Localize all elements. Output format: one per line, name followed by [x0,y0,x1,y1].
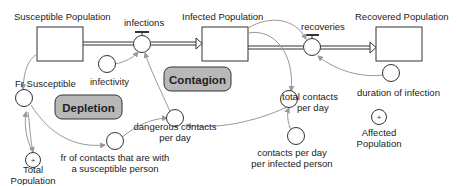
aux-infectivity[interactable]: infectivity [90,56,129,88]
flow-arrowhead-icon [370,42,376,53]
flow-label: infections [124,17,164,28]
valve-icon [134,36,151,53]
aux-circle-icon [107,133,124,150]
aux-label: Population [11,175,56,185]
aux-label: infectivity [90,76,129,87]
aux-fr-of-contacts[interactable]: fr of contacts that are with a susceptib… [61,133,170,175]
aux-label: contacts per day [257,147,327,158]
stock-flow-diagram: Susceptible Population Infected Populati… [0,0,457,185]
aux-circle-icon [383,65,400,82]
aux-contacts-per-infected[interactable]: contacts per day per infected person [251,128,332,170]
stock-susceptible-population[interactable]: Susceptible Population [14,11,111,61]
flow-label: recoveries [301,21,345,32]
aux-label: per day [159,132,191,143]
aux-label: Affected [362,127,397,138]
stock-label: Infected Population [182,11,263,22]
aux-total-population[interactable]: + Total Population [11,153,56,186]
aux-label: per day [297,102,329,113]
plus-icon: + [377,113,382,122]
aux-dangerous-contacts[interactable]: dangerous contacts per day [134,110,217,144]
loop-contagion: Contagion [164,67,231,91]
aux-affected-population[interactable]: + Affected Population [357,110,402,150]
stock-recovered-population[interactable]: Recovered Population [355,11,448,61]
loop-label: Contagion [169,74,226,86]
loop-label: Depletion [62,102,114,114]
flow-valve-infections[interactable]: infections [124,17,164,53]
aux-label: per infected person [251,158,332,169]
aux-label: Population [357,138,402,149]
stock-label: Recovered Population [355,11,448,22]
aux-label: duration of infection [357,87,440,98]
aux-label: Total [23,164,43,175]
valve-icon [304,39,321,56]
aux-duration-of-infection[interactable]: duration of infection [357,65,440,99]
aux-circle-icon [16,90,33,107]
aux-total-contacts[interactable]: total contacts per day [281,91,339,114]
aux-label: dangerous contacts [134,121,217,132]
aux-circle-icon [288,128,305,145]
flow-valve-recoveries[interactable]: recoveries [301,21,345,56]
aux-label: fr of contacts that are with [61,152,170,163]
stock-label: Susceptible Population [14,11,111,22]
flow-arrowhead-icon [196,38,202,49]
aux-label: a susceptible person [71,163,158,174]
loop-depletion: Depletion [55,95,122,119]
aux-circle-icon [99,56,116,73]
stock-infected-population[interactable]: Infected Population [182,11,263,61]
aux-label: total contacts [282,91,338,102]
aux-label: Fr Susceptible [15,78,76,89]
